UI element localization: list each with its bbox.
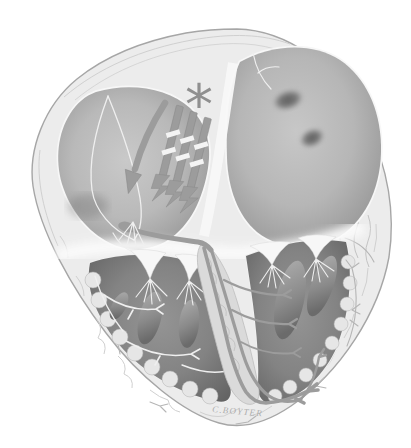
left-ventricle: [246, 235, 359, 404]
heart-illustration: * C.BOYTER: [0, 0, 411, 448]
sa-node-asterisk-icon: *: [185, 72, 213, 137]
left-atrium-cavity: [227, 47, 381, 246]
left-atrium: [227, 47, 381, 246]
heart-illustration-canvas: * C.BOYTER: [0, 0, 411, 448]
